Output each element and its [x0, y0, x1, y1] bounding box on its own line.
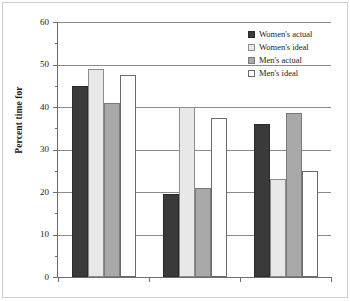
bar-work-women-s-actual	[254, 124, 270, 277]
y-tick-40	[53, 107, 58, 108]
y-tick-60	[53, 22, 58, 23]
bar-work-men-s-ideal	[302, 171, 318, 277]
bar-work-women-s-ideal	[270, 179, 286, 277]
legend-label: Men's ideal	[259, 69, 298, 78]
y-tick-20	[53, 192, 58, 193]
bar-self-men-s-ideal	[211, 118, 227, 277]
legend-swatch-mens-actual-icon	[248, 57, 255, 64]
chart-legend: Women's actualWomen's idealMen's actualM…	[248, 28, 344, 80]
y-tick-30	[53, 150, 58, 151]
y-minor-tick-15	[55, 213, 58, 214]
y-tick-label-30: 30	[23, 145, 49, 154]
legend-label: Women's actual	[259, 30, 312, 39]
y-axis-title: Percent time for	[14, 50, 24, 190]
gridline-60	[58, 22, 331, 23]
legend-label: Women's ideal	[259, 43, 309, 52]
legend-item-women-s-ideal[interactable]: Women's ideal	[248, 41, 344, 53]
y-minor-tick-45	[55, 86, 58, 87]
bar-self-men-s-actual	[195, 188, 211, 277]
x-separator-2	[240, 277, 241, 282]
legend-item-men-s-ideal[interactable]: Men's ideal	[248, 67, 344, 79]
y-tick-50	[53, 65, 58, 66]
y-minor-tick-5	[55, 256, 58, 257]
y-minor-tick-55	[55, 43, 58, 44]
y-tick-10	[53, 235, 58, 236]
legend-swatch-mens-ideal-icon	[248, 70, 255, 77]
y-tick-label-40: 40	[23, 103, 49, 112]
legend-label: Men's actual	[259, 56, 302, 65]
y-tick-label-50: 50	[23, 60, 49, 69]
legend-item-men-s-actual[interactable]: Men's actual	[248, 54, 344, 66]
legend-item-women-s-actual[interactable]: Women's actual	[248, 28, 344, 40]
y-tick-label-10: 10	[23, 230, 49, 239]
bar-chart-figure: Percent time for 6050403020100 FamilySel…	[0, 0, 350, 301]
bar-family-women-s-actual	[72, 86, 88, 277]
bar-family-women-s-ideal	[88, 69, 104, 277]
x-separator-3	[331, 277, 332, 282]
y-minor-tick-35	[55, 128, 58, 129]
x-separator-1	[149, 277, 150, 282]
legend-swatch-womens-ideal-icon	[248, 44, 255, 51]
y-tick-label-0: 0	[23, 273, 49, 282]
bar-family-men-s-actual	[104, 103, 120, 277]
x-separator-0	[58, 277, 59, 282]
y-minor-tick-25	[55, 171, 58, 172]
bar-work-men-s-actual	[286, 113, 302, 277]
y-tick-label-20: 20	[23, 188, 49, 197]
legend-swatch-womens-actual-icon	[248, 31, 255, 38]
gridline-0	[58, 277, 331, 278]
y-tick-label-60: 60	[23, 18, 49, 27]
bar-family-men-s-ideal	[120, 75, 136, 277]
bar-self-women-s-actual	[163, 194, 179, 277]
bar-self-women-s-ideal	[179, 107, 195, 277]
